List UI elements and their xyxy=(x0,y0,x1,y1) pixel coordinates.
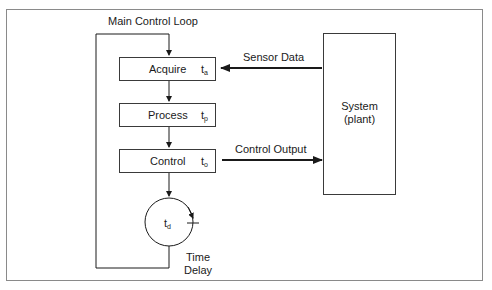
acquire-block: Acquire ta xyxy=(119,57,216,81)
process-time: tp xyxy=(201,109,208,122)
delay-rotation-arrow-icon xyxy=(188,207,193,218)
system-label: System (plant) xyxy=(324,100,395,126)
control-block: Control to xyxy=(119,149,216,173)
process-label: Process xyxy=(148,109,188,121)
sensor-data-label: Sensor Data xyxy=(243,51,304,63)
acquire-time: ta xyxy=(201,63,208,76)
delay-time: td xyxy=(164,217,171,230)
control-output-label: Control Output xyxy=(235,143,307,155)
system-plant-block: System (plant) xyxy=(323,33,396,195)
loop-title: Main Control Loop xyxy=(108,15,198,27)
process-block: Process tp xyxy=(119,103,216,127)
control-label: Control xyxy=(150,155,185,167)
time-delay-label: Time Delay xyxy=(178,251,218,277)
acquire-label: Acquire xyxy=(149,63,186,75)
control-time: to xyxy=(201,155,208,168)
